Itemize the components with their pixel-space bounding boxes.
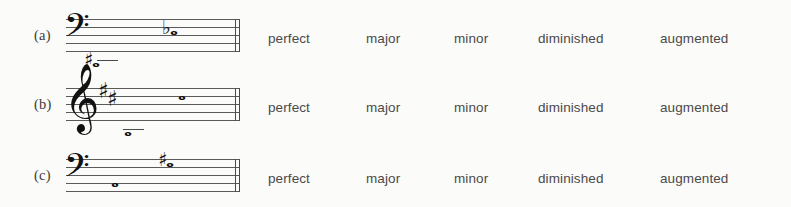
answer-option-diminished[interactable]: diminished xyxy=(538,171,604,186)
barline xyxy=(239,88,241,121)
note-head: 𝅝 xyxy=(178,81,186,105)
answer-option-minor[interactable]: minor xyxy=(454,100,488,115)
exercise-row-c: (c) 𝄢 𝅝 ♯𝅝 perfect major minor diminish xyxy=(0,145,791,207)
answer-option-diminished[interactable]: diminished xyxy=(538,100,604,115)
answer-option-augmented[interactable]: augmented xyxy=(660,171,728,186)
staff-line xyxy=(66,27,240,28)
staff-line xyxy=(66,19,240,20)
answer-option-major[interactable]: major xyxy=(366,31,400,46)
exercise-row-b: (b) 𝄞 ♯ ♯ 𝅝 𝅝 perfect major xyxy=(0,74,791,136)
treble-clef-icon: 𝄞 xyxy=(64,67,99,127)
staff-line xyxy=(66,175,240,176)
barline xyxy=(235,159,237,192)
answer-choices-b: perfect major minor diminished augmented xyxy=(268,100,778,120)
answer-option-perfect[interactable]: perfect xyxy=(268,171,310,186)
bass-clef-icon: 𝄢 xyxy=(64,149,90,189)
note-head: 𝅝 xyxy=(124,117,132,141)
note-c-upper: ♯𝅝 xyxy=(158,150,174,170)
answer-option-major[interactable]: major xyxy=(366,171,400,186)
answer-option-major[interactable]: major xyxy=(366,100,400,115)
note-b-upper: 𝅝 xyxy=(178,83,186,103)
answer-option-perfect[interactable]: perfect xyxy=(268,100,310,115)
staff-line xyxy=(66,183,240,184)
staff-line xyxy=(66,191,240,192)
note-c-lower: 𝅝 xyxy=(111,170,119,190)
barline xyxy=(239,19,241,52)
row-label-a: (a) xyxy=(34,27,68,44)
note-head: 𝅝 xyxy=(170,16,178,40)
answer-option-minor[interactable]: minor xyxy=(454,171,488,186)
key-signature-sharp-icon: ♯ xyxy=(107,88,118,110)
row-label-c: (c) xyxy=(34,167,68,184)
answer-option-augmented[interactable]: augmented xyxy=(660,31,728,46)
answer-choices-c: perfect major minor diminished augmented xyxy=(268,171,778,191)
bass-clef-icon: 𝄢 xyxy=(64,9,90,49)
answer-choices-a: perfect major minor diminished augmented xyxy=(268,31,778,51)
staff-c: 𝄢 𝅝 ♯𝅝 xyxy=(66,159,240,191)
interval-identification-worksheet: (a) 𝄢 ♯𝅝 ♭𝅝 perfect major minor xyxy=(0,0,791,207)
staff-line xyxy=(66,159,240,160)
barline xyxy=(235,19,237,52)
note-head: 𝅝 xyxy=(166,148,174,172)
note-head: 𝅝 xyxy=(111,168,119,192)
staff-a: 𝄢 ♯𝅝 ♭𝅝 xyxy=(66,19,240,51)
answer-option-minor[interactable]: minor xyxy=(454,31,488,46)
answer-option-augmented[interactable]: augmented xyxy=(660,100,728,115)
answer-option-diminished[interactable]: diminished xyxy=(538,31,604,46)
row-label-b: (b) xyxy=(34,96,68,113)
barline xyxy=(239,159,241,192)
note-a-upper: ♭𝅝 xyxy=(162,18,178,38)
barline xyxy=(235,88,237,121)
staff-line xyxy=(66,35,240,36)
note-b-lower: 𝅝 xyxy=(124,119,132,139)
flat-icon: ♭ xyxy=(162,16,171,38)
staff-b: 𝄞 ♯ ♯ 𝅝 𝅝 xyxy=(66,88,240,120)
exercise-row-a: (a) 𝄢 ♯𝅝 ♭𝅝 perfect major minor xyxy=(0,5,791,67)
sharp-icon: ♯ xyxy=(158,148,167,170)
staff-line xyxy=(66,167,240,168)
staff-line xyxy=(66,43,240,44)
answer-option-perfect[interactable]: perfect xyxy=(268,31,310,46)
